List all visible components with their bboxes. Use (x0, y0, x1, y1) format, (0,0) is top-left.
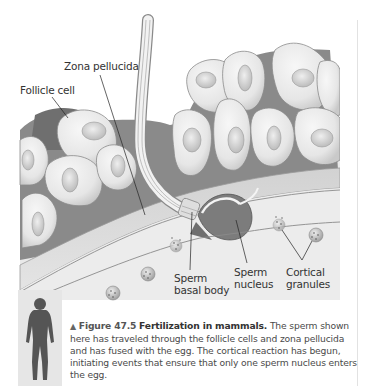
label-cortical-granules: Cortical granules (286, 266, 330, 290)
cortical-granule (141, 267, 155, 281)
caption-marker-icon: ▲ (70, 322, 76, 331)
follicle-cell (214, 99, 251, 170)
label-sperm-nucleus-line1: Sperm (234, 266, 273, 278)
label-follicle-cell: Follicle cell (20, 84, 75, 96)
cortical-granule (106, 286, 120, 300)
caption-title: Fertilization in mammals. (139, 320, 267, 331)
human-silhouette-thumbnail (18, 290, 62, 386)
label-cortical-granules-line1: Cortical (286, 266, 330, 278)
cortical-granule (309, 228, 323, 242)
caption-figure-number: Figure 47.5 (79, 320, 137, 331)
label-sperm-nucleus-line2: nucleus (234, 278, 273, 290)
follicle-cell (173, 110, 212, 176)
label-sperm-basal-body: Sperm basal body (174, 272, 229, 296)
label-sperm-basal-body-line2: basal body (174, 284, 229, 296)
fertilization-illustration (0, 0, 340, 310)
label-cortical-granules-line2: granules (286, 278, 330, 290)
figure-caption: ▲ Figure 47.5 Fertilization in mammals. … (70, 320, 360, 381)
label-sperm-basal-body-line1: Sperm (174, 272, 229, 284)
label-zona-pellucida: Zona pellucida (64, 60, 139, 72)
label-sperm-nucleus: Sperm nucleus (234, 266, 273, 290)
follicle-cell (251, 108, 294, 166)
figure-page: Zona pellucida Follicle cell Sperm basal… (0, 0, 374, 386)
human-silhouette-icon (18, 290, 62, 386)
